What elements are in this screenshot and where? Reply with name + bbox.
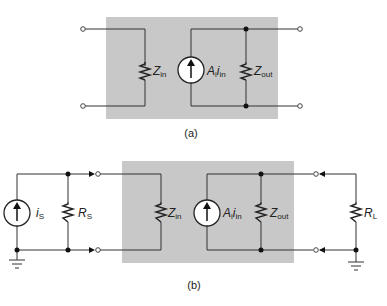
arrowhead-icon bbox=[89, 247, 95, 253]
diagram-a: Zin Aiiin Zout (a) bbox=[81, 17, 303, 139]
caption-a: (a) bbox=[184, 127, 197, 139]
node-dot bbox=[15, 248, 20, 253]
arrowhead-icon bbox=[319, 247, 325, 253]
node-dot bbox=[259, 248, 264, 253]
node-dot bbox=[66, 172, 71, 177]
terminal bbox=[298, 104, 303, 109]
node-dot bbox=[354, 248, 359, 253]
caption-b: (b) bbox=[187, 279, 200, 291]
wire bbox=[17, 226, 92, 250]
node-dot bbox=[259, 172, 264, 177]
terminal bbox=[81, 27, 86, 32]
circuit-diagrams: Zin Aiiin Zout (a) iS bbox=[0, 0, 387, 306]
node-dot bbox=[66, 248, 71, 253]
ground-icon bbox=[9, 260, 25, 268]
terminal bbox=[96, 172, 101, 177]
terminal bbox=[96, 248, 101, 253]
ground-icon bbox=[348, 262, 364, 270]
terminal bbox=[314, 172, 319, 177]
is-label: iS bbox=[36, 206, 44, 221]
rl-label: RL bbox=[364, 206, 378, 221]
resistor-rs-icon bbox=[63, 202, 73, 222]
node-dot bbox=[244, 104, 249, 109]
wire bbox=[17, 174, 92, 200]
arrowhead-icon bbox=[319, 171, 325, 177]
terminal bbox=[81, 104, 86, 109]
terminal bbox=[298, 27, 303, 32]
node-dot bbox=[244, 27, 249, 32]
diagram-b: iS RS Zin Aiiin Zout RL bbox=[4, 161, 378, 291]
rs-label: RS bbox=[78, 206, 92, 221]
resistor-rl-icon bbox=[351, 202, 361, 222]
terminal bbox=[314, 248, 319, 253]
arrowhead-icon bbox=[89, 171, 95, 177]
